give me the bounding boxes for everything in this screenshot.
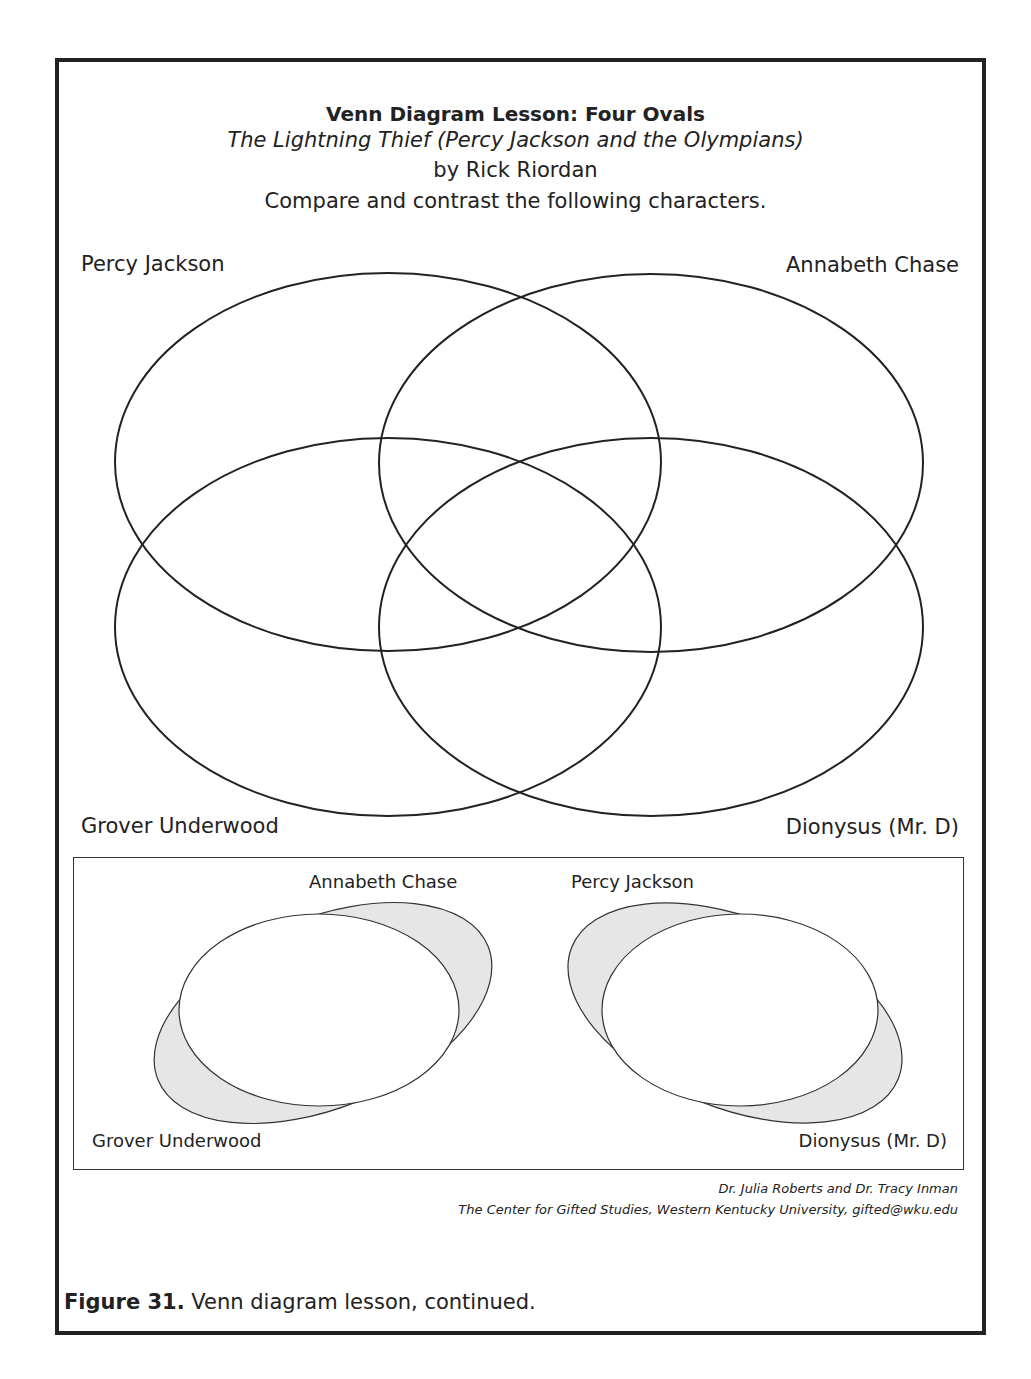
venn-diagram-graphics — [0, 0, 1031, 1379]
figure-label: Figure 31. — [64, 1290, 185, 1314]
legend-box — [73, 857, 964, 1170]
figure-caption-text: Venn diagram lesson, continued. — [185, 1290, 536, 1314]
oval-grover-underwood — [115, 438, 661, 816]
legend-left-top-label: Annabeth Chase — [309, 871, 457, 892]
label-percy-jackson: Percy Jackson — [81, 252, 225, 276]
legend-right-bottom-label: Dionysus (Mr. D) — [799, 1130, 947, 1151]
credit-institution: The Center for Gifted Studies, Western K… — [458, 1202, 958, 1217]
label-dionysus: Dionysus (Mr. D) — [786, 815, 959, 839]
label-grover-underwood: Grover Underwood — [81, 814, 279, 838]
oval-dionysus — [379, 438, 923, 816]
label-annabeth-chase: Annabeth Chase — [786, 253, 959, 277]
legend-right-top-label: Percy Jackson — [571, 871, 694, 892]
legend-left-bottom-label: Grover Underwood — [92, 1130, 261, 1151]
figure-caption: Figure 31. Venn diagram lesson, continue… — [64, 1290, 536, 1314]
oval-annabeth-chase — [379, 274, 923, 652]
oval-percy-jackson — [115, 273, 661, 651]
credit-authors: Dr. Julia Roberts and Dr. Tracy Inman — [718, 1181, 958, 1196]
